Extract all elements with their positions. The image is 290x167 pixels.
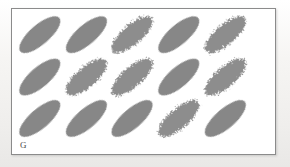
stimulus-ellipse: [14, 94, 66, 143]
stimulus-ellipse: [153, 10, 205, 59]
stimulus-ellipse: [199, 53, 251, 102]
stimulus-ellipse: [60, 10, 112, 59]
figure-root: G: [0, 0, 290, 167]
stimulus-ellipse: [199, 10, 251, 59]
stimulus-panel: G: [11, 8, 276, 155]
stimulus-ellipse: [153, 53, 205, 102]
stimulus-ellipse: [60, 53, 112, 102]
stimulus-ellipse: [106, 10, 158, 59]
stimulus-ellipse: [14, 10, 66, 59]
stimulus-ellipse: [153, 94, 205, 143]
stimulus-ellipse: [199, 94, 251, 143]
panel-label-g: G: [20, 140, 27, 150]
ellipse-layer: [14, 10, 252, 142]
stimulus-ellipse-array: [12, 9, 275, 154]
stimulus-ellipse: [106, 53, 158, 102]
stimulus-ellipse: [106, 94, 158, 143]
stimulus-ellipse: [60, 94, 112, 143]
stimulus-ellipse: [14, 53, 66, 102]
